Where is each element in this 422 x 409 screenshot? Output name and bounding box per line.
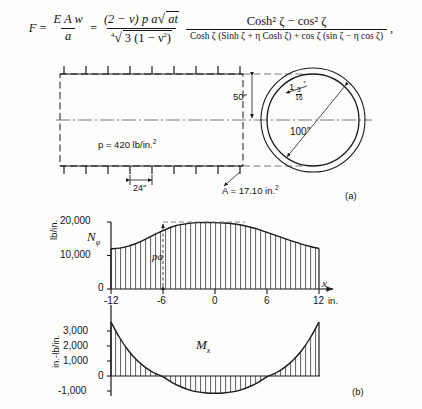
- xtick-label--12: -12: [104, 295, 118, 306]
- m-x-ytick-2000: 2,000: [63, 340, 88, 351]
- pressure-label: p = 420 lb/in.2: [98, 138, 156, 150]
- m-x-ytick-0: 0: [98, 370, 104, 381]
- xtick-label-6: 6: [264, 295, 270, 306]
- caption-b: (b): [352, 386, 364, 397]
- n-phi-ytick-20000: 20,000: [60, 215, 91, 226]
- n-phi-curve-label: Nφ: [87, 229, 100, 247]
- n-phi-y-axis-label: lb/in.: [48, 220, 59, 240]
- shared-x-ticks: [111, 289, 319, 294]
- m-x-ytick-3000: 3,000: [63, 325, 88, 336]
- xtick-label-0: 0: [212, 295, 218, 306]
- vessel-elevation: [56, 66, 372, 186]
- m-x-ytick--1000: -1,000: [58, 385, 86, 396]
- n-phi-ytick-0: 0: [98, 282, 104, 293]
- m-x-hatched-area-positive: [111, 322, 319, 393]
- m-x-curve-label: Mx: [196, 337, 210, 355]
- x-axis-unit: in.: [328, 295, 338, 306]
- n-phi-ytick-10000: 10,000: [60, 249, 91, 260]
- thickness-label: 1316″: [289, 80, 306, 101]
- m-x-ytick-1000: 1,000: [63, 355, 88, 366]
- diameter-label: 100″: [290, 126, 310, 137]
- xtick-label-12: 12: [313, 295, 324, 306]
- spacing-label: 24″: [133, 183, 146, 193]
- x-axis-label: x: [322, 277, 327, 289]
- stiffener-ticks-bottom: [64, 166, 240, 174]
- caption-a: (a): [345, 190, 357, 201]
- chart-n-phi: [107, 222, 333, 289]
- area-label: A = 17.10 in.2: [222, 184, 279, 196]
- xtick-label--6: -6: [157, 295, 166, 306]
- pa-annotation-label: pa: [152, 250, 163, 262]
- n-phi-hatched-area: [111, 223, 319, 290]
- height-label: 50″: [233, 91, 247, 102]
- m-x-y-axis-label: in.-lb/in.: [50, 335, 61, 368]
- stiffener-ticks-top: [64, 66, 240, 74]
